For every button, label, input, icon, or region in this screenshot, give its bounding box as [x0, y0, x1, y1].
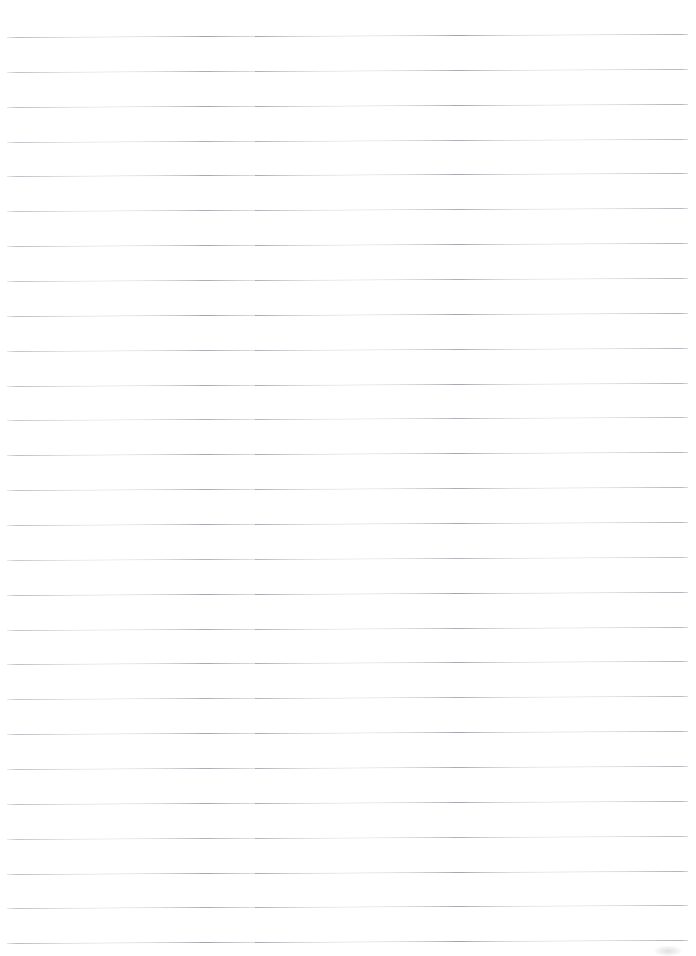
rule-line — [7, 731, 688, 735]
rule-line — [7, 348, 688, 352]
rule-line — [7, 557, 688, 561]
rule-line — [7, 592, 688, 596]
rule-line — [7, 243, 688, 247]
rule-line — [7, 905, 688, 909]
rule-line — [7, 69, 688, 73]
lined-paper-page — [0, 0, 696, 956]
rule-lines-group — [0, 0, 696, 956]
rule-line — [7, 313, 688, 317]
rule-line — [7, 871, 688, 875]
rule-line — [7, 801, 688, 805]
rule-line — [7, 208, 688, 212]
rule-line — [7, 34, 688, 38]
rule-line — [7, 627, 688, 631]
rule-line — [7, 383, 688, 387]
rule-line — [7, 139, 688, 143]
rule-line — [7, 766, 688, 770]
rule-line — [7, 836, 688, 840]
rule-line — [7, 696, 688, 700]
rule-line — [7, 417, 688, 421]
rule-line — [7, 522, 688, 526]
rule-line — [7, 278, 688, 282]
rule-line — [7, 487, 688, 491]
rule-line — [7, 104, 688, 108]
rule-line — [7, 452, 688, 456]
rule-line — [7, 661, 688, 665]
rule-line — [7, 173, 688, 177]
rule-line — [7, 940, 688, 944]
